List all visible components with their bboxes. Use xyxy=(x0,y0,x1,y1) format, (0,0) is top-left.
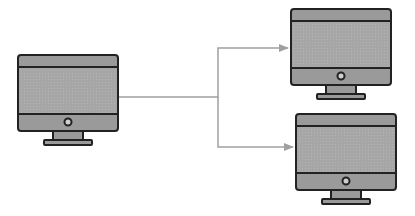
connector-lines xyxy=(118,48,293,147)
diagram-canvas xyxy=(0,0,415,216)
arrow-to-bottom-computer xyxy=(218,97,293,147)
target-computer-top-icon xyxy=(291,9,391,99)
target-computer-bottom-icon xyxy=(296,114,396,204)
arrow-to-top-computer xyxy=(118,48,288,97)
source-computer-icon xyxy=(18,55,118,145)
